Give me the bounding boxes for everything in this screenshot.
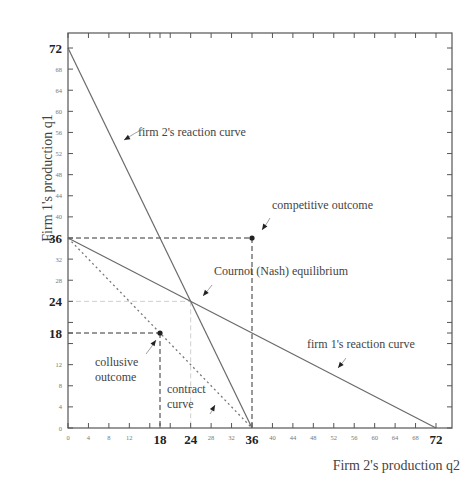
collusive-outcome-label: outcome [95, 370, 136, 384]
cournot-chart: 0481218242832364044485256606468720481218… [0, 0, 476, 491]
x-tick-label: 64 [392, 434, 399, 441]
y-tick-label: 18 [49, 326, 63, 341]
y-tick-label: 28 [56, 277, 63, 284]
y-tick-label: 32 [56, 256, 63, 263]
x-tick-label: 32 [228, 434, 235, 441]
competitive-outcome-dot [249, 235, 254, 240]
y-tick-label: 0 [59, 425, 62, 432]
y-tick-label: 52 [56, 150, 63, 157]
x-tick-label: 44 [290, 434, 297, 441]
x-tick-label: 24 [184, 432, 198, 447]
x-tick-label: 72 [430, 432, 443, 447]
x-tick-label: 18 [154, 432, 168, 447]
x-tick-label: 8 [107, 434, 110, 441]
x-tick-label: 60 [371, 434, 378, 441]
contract-curve-label: curve [167, 397, 194, 411]
x-tick-label: 40 [269, 434, 276, 441]
competitive-outcome-label: competitive outcome [272, 198, 373, 212]
y-tick-label: 48 [56, 171, 63, 178]
y-tick-label: 24 [49, 294, 63, 309]
x-tick-label: 56 [351, 434, 358, 441]
firm-2-s-reaction-curve-label: firm 2's reaction curve [138, 125, 246, 139]
x-tick-label: 52 [331, 434, 338, 441]
y-tick-label: 44 [56, 192, 63, 199]
y-tick-label: 68 [56, 66, 63, 73]
collusive-outcome-dot [157, 330, 162, 335]
x-axis-title: Firm 2's production q2 [333, 458, 460, 473]
y-tick-label: 8 [59, 382, 62, 389]
y-axis-title: Firm 1's production q1 [40, 114, 55, 241]
x-tick-label: 12 [126, 434, 133, 441]
x-tick-label: 68 [412, 434, 419, 441]
y-tick-label: 64 [56, 87, 63, 94]
contract-curve-label: contract [167, 382, 206, 396]
x-tick-label: 48 [310, 434, 317, 441]
firm-1-s-reaction-curve-label: firm 1's reaction curve [307, 337, 415, 351]
y-tick-label: 56 [56, 129, 63, 136]
y-tick-label: 72 [49, 41, 62, 56]
y-tick-label: 12 [56, 361, 63, 368]
y-tick-label: 40 [56, 213, 63, 220]
x-tick-label: 36 [246, 432, 260, 447]
x-tick-label: 28 [208, 434, 215, 441]
y-tick-label: 60 [56, 108, 63, 115]
x-tick-label: 0 [66, 434, 69, 441]
cournot-nash-equilibrium-label: Cournot (Nash) equilibrium [214, 264, 349, 278]
collusive-outcome-label: collusive [95, 355, 138, 369]
chart-background [0, 0, 476, 491]
